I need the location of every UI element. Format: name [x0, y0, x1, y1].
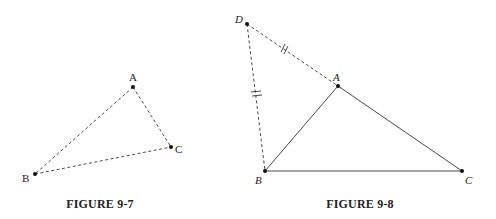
caption-figure-9-8: FIGURE 9-8: [326, 197, 394, 211]
segment-ac: [133, 87, 171, 147]
point-d: [245, 22, 249, 26]
segment-ac: [338, 86, 462, 171]
tick-marks-db: [251, 91, 262, 96]
point-a: [131, 85, 135, 89]
segment-db: [247, 24, 265, 171]
point-b: [33, 172, 37, 176]
segment-da: [247, 24, 338, 86]
caption-figure-9-7: FIGURE 9-7: [66, 197, 134, 211]
figure-9-7: A B C FIGURE 9-7: [22, 71, 182, 211]
label-a: A: [332, 71, 340, 83]
label-c: C: [175, 143, 182, 155]
label-b: B: [255, 174, 262, 186]
point-b: [263, 169, 267, 173]
label-b: B: [22, 172, 29, 184]
point-c: [169, 145, 173, 149]
tick-marks-da: [281, 44, 288, 54]
point-a: [336, 84, 340, 88]
label-a: A: [129, 71, 137, 83]
segment-bc: [35, 147, 171, 174]
segment-ab: [265, 86, 338, 171]
label-c: C: [465, 174, 473, 186]
figure-9-8: D A B C FIGURE 9-8: [234, 13, 473, 211]
segment-ab: [35, 87, 133, 174]
label-d: D: [234, 13, 243, 25]
geometry-figures: A B C FIGURE 9-7 D A B C FIGURE 9-8: [0, 0, 496, 219]
point-c: [460, 169, 464, 173]
